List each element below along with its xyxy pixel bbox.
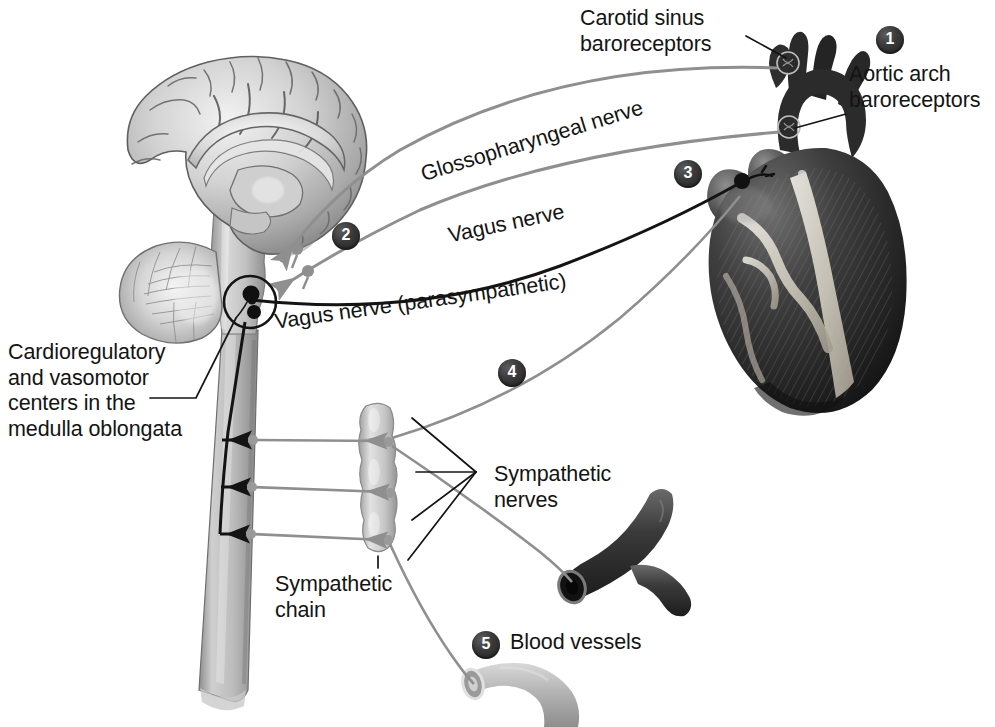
step-badge-3: 3 [674, 160, 702, 188]
label-blood-vessels: Blood vessels [510, 630, 641, 656]
leader-aortic-arch [795, 114, 846, 128]
step-badge-number: 2 [342, 226, 351, 244]
step-badge-4: 4 [498, 359, 526, 387]
label-sympathetic-chain: Sympathetic chain [275, 572, 392, 623]
step-badge-number: 1 [886, 30, 895, 48]
step-badge-2: 2 [332, 222, 360, 250]
step-badge-1: 1 [876, 26, 904, 54]
step-badge-number: 3 [684, 164, 693, 182]
label-cardioregulatory-vasomotor-centers: Cardioregulatory and vasomotor centers i… [8, 340, 182, 442]
figure-canvas: Carotid sinus baroreceptors Aortic arch … [0, 0, 995, 727]
label-sympathetic-nerves: Sympathetic nerves [494, 462, 611, 513]
label-carotid-sinus-baroreceptors: Carotid sinus baroreceptors [580, 6, 711, 57]
step-badge-number: 4 [508, 363, 517, 381]
step-badge-number: 5 [482, 635, 491, 653]
step-badge-5: 5 [472, 631, 500, 659]
label-aortic-arch-baroreceptors: Aortic arch baroreceptors [849, 62, 980, 113]
leader-carotid-sinus [746, 36, 786, 58]
leader-symp-branch-top [412, 418, 476, 472]
